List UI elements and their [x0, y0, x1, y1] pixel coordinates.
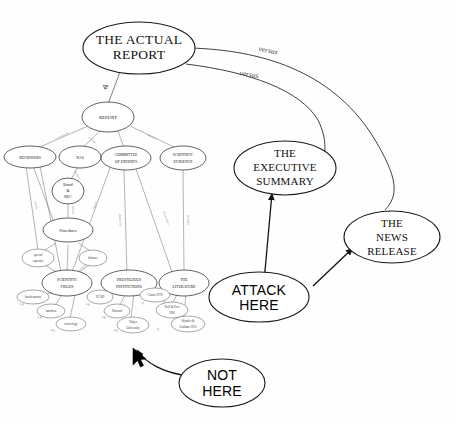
node-prestigious-line2: INSTITUTIONS [116, 285, 142, 289]
edge-label-is-from: is from [88, 135, 97, 144]
node-special-expertise-line1: special [34, 253, 43, 257]
node-tokyo-line1: Tokyo [129, 320, 137, 324]
node-board-line3: REC [64, 195, 72, 199]
edge-label-versus-top: versus [258, 44, 279, 57]
node-attack-here-line1: ATTACK [232, 282, 287, 298]
node-committee-shape [101, 146, 151, 170]
edge-label-versus-bottom: versus [239, 68, 259, 80]
node-news-release-line3: RELEASE [367, 245, 417, 257]
node-toxicology-label: toxicology [64, 322, 78, 326]
node-nas[interactable]: NAS [59, 146, 101, 168]
node-cairns-1978[interactable]: Cairns 1978 [140, 288, 170, 302]
node-executive-summary-line2: EXECUTIVE [253, 161, 317, 173]
node-reviewers-label: REVIEWERS [19, 156, 41, 160]
node-scientific-fields-shape [42, 270, 92, 296]
node-ucsd-label: UCSD [96, 295, 105, 299]
edge-label-is-written-by: is written by [54, 131, 70, 141]
edge-label-eg-3: e.g. [51, 328, 56, 332]
edge-fields-to-toxicology [70, 295, 75, 318]
edge-scientific-evidence-to-literature [183, 170, 184, 272]
node-cairns-label: Cairns 1978 [147, 293, 162, 297]
node-board-line2: & [67, 189, 70, 193]
node-not-here[interactable]: NOT HERE [179, 359, 265, 407]
node-reviewers[interactable]: REVIEWERS [4, 146, 56, 168]
edge-label-cf-2: cf. [157, 327, 160, 331]
edge-label-eg-6: e.g. [114, 328, 119, 332]
edge-report-to-committee [118, 131, 124, 148]
diagram-svg: THE ACTUAL REPORT THE EXECUTIVE SUMMARY … [0, 0, 456, 425]
node-nas-label: NAS [76, 156, 84, 160]
node-actual-report-line1: THE ACTUAL [96, 32, 183, 47]
node-wynder-line1: Wynder & [182, 319, 196, 323]
node-scientific-evidence-line1: SCIENTIFIC [173, 153, 194, 157]
node-board-rec[interactable]: Board & REC [52, 178, 84, 204]
edge-procedures-to-scientific-fields [67, 245, 68, 270]
node-procedures[interactable]: Procedures [43, 218, 93, 242]
node-doll-peto-line1: Doll & Peto [165, 305, 180, 309]
node-prestigious-line1: PRESTIGIOUS [117, 278, 141, 282]
node-committee-of-experts[interactable]: COMMITTEE OF EXPERTS [101, 146, 151, 170]
edge-label-cf-1: cf. [142, 301, 145, 305]
edge-group-scientific-evidence [183, 170, 184, 272]
node-attack-here-line2: HERE [239, 297, 279, 313]
node-biochemistry-label: biochemistry [25, 295, 42, 299]
node-scientific-evidence[interactable]: SCIENTIFIC EVIDENCE [160, 146, 206, 170]
edge-label-assesses: assesses [147, 133, 158, 141]
node-executive-summary-line3: SUMMARY [256, 175, 314, 187]
edge-group-attack [264, 193, 353, 286]
node-news-release[interactable]: THE NEWS RELEASE [344, 211, 440, 263]
node-toxicology[interactable]: toxicology [56, 317, 86, 331]
mouse-pointer-shape [133, 348, 146, 367]
node-ucsd[interactable]: UCSD [87, 290, 113, 304]
edge-label-eg-2: e.g. [38, 315, 43, 319]
node-committee-line2: OF EXPERTS [115, 160, 137, 164]
node-actual-report-line2: REPORT [113, 47, 166, 62]
node-literature-line1: THE [180, 278, 188, 282]
node-special-expertise[interactable]: special expertise [22, 249, 54, 267]
mouse-pointer-icon [133, 348, 146, 367]
edge-label-require-2: require [91, 200, 98, 210]
edge-fields-to-nutrition [55, 295, 62, 305]
node-scientific-fields-line2: FIELDS [61, 285, 74, 289]
node-board-line1: Board [63, 183, 72, 187]
node-attack-here[interactable]: ATTACK HERE [209, 272, 309, 322]
node-executive-summary[interactable]: THE EXECUTIVE SUMMARY [234, 141, 336, 195]
node-scientific-evidence-shape [160, 146, 206, 170]
node-report[interactable]: REPORT [82, 102, 134, 132]
node-scientific-evidence-line2: EVIDENCE [174, 160, 194, 164]
node-tokyo-university[interactable]: Tokyo University [117, 317, 149, 333]
arrow-not-here-to-tree [137, 350, 182, 375]
node-tokyo-line2: University [126, 326, 140, 330]
edge-label-ampersand: & [101, 83, 111, 92]
node-doll-peto-1981[interactable]: Doll & Peto 1981 [156, 302, 188, 318]
edge-label-drawn-from: drawn from [162, 211, 171, 226]
edge-label-follows: follows [71, 206, 75, 216]
edge-reviewers-to-procedures [33, 166, 55, 225]
node-doll-peto-line2: 1981 [169, 311, 176, 315]
node-literature-line2: LITERATURE [173, 285, 197, 289]
node-scientific-fields-line1: SCIENTIFIC [57, 278, 78, 282]
node-news-release-line2: NEWS [376, 231, 408, 243]
node-harvard[interactable]: Harvard [104, 304, 130, 318]
node-wynder-graham-1950[interactable]: Wynder & Graham 1950 [171, 316, 205, 332]
node-actual-report[interactable]: THE ACTUAL REPORT [83, 22, 195, 74]
node-not-here-line2: HERE [202, 383, 242, 399]
node-executive-summary-line1: THE [274, 147, 296, 159]
node-news-release-line1: THE [381, 217, 403, 229]
node-harvard-label: Harvard [112, 309, 123, 313]
edge-label-eg-4: e.g. [86, 302, 91, 306]
edge-label-includes: includes [186, 215, 190, 226]
node-balance-label: balance [88, 256, 98, 260]
node-special-expertise-line2: expertise [32, 259, 44, 263]
edge-label-eg-5: e.g. [102, 315, 107, 319]
node-not-here-line1: NOT [207, 367, 237, 383]
node-nutrition-label: nutrition [46, 309, 57, 313]
arrow-attack-to-news-release [313, 248, 353, 286]
edge-committee-to-prestigious [124, 170, 127, 274]
edge-label-chosen-for: chosen for [118, 214, 123, 228]
diagram-canvas: THE ACTUAL REPORT THE EXECUTIVE SUMMARY … [0, 0, 456, 425]
edge-label-eg-1: e.g. [20, 302, 25, 306]
edge-actual-report-to-report [108, 72, 120, 104]
node-procedures-label: Procedures [60, 229, 77, 233]
node-scientific-fields[interactable]: SCIENTIFIC FIELDS [42, 270, 92, 296]
